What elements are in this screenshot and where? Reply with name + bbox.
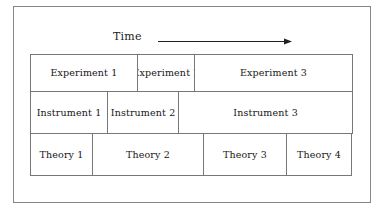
block-theory-1[interactable]: Theory 1 bbox=[30, 133, 93, 176]
track-row-instrument: Instrument 1 Instrument 2 Instrument 3 bbox=[30, 91, 355, 134]
block-theory-4[interactable]: Theory 4 bbox=[286, 133, 352, 176]
time-axis: Time bbox=[30, 30, 355, 50]
block-instrument-2[interactable]: Instrument 2 bbox=[107, 91, 179, 134]
block-experiment-2[interactable]: Experiment 2 bbox=[137, 54, 195, 92]
block-theory-2[interactable]: Theory 2 bbox=[92, 133, 204, 176]
phase-block-diagram: Experiment 1 Experiment 2 Experiment 3 I… bbox=[30, 54, 355, 178]
right-arrow-icon bbox=[158, 37, 292, 46]
block-theory-3[interactable]: Theory 3 bbox=[203, 133, 287, 176]
block-label: Instrument 1 bbox=[37, 107, 102, 119]
block-label: Instrument 2 bbox=[111, 107, 176, 119]
block-label: Instrument 3 bbox=[233, 107, 298, 119]
block-experiment-1[interactable]: Experiment 1 bbox=[30, 54, 138, 92]
block-experiment-3[interactable]: Experiment 3 bbox=[194, 54, 353, 92]
block-label: Experiment 2 bbox=[137, 67, 195, 79]
block-label: Theory 3 bbox=[223, 149, 267, 161]
block-instrument-1[interactable]: Instrument 1 bbox=[30, 91, 108, 134]
track-row-experiment: Experiment 1 Experiment 2 Experiment 3 bbox=[30, 54, 355, 92]
block-label: Theory 4 bbox=[297, 149, 341, 161]
track-row-theory: Theory 1 Theory 2 Theory 3 Theory 4 bbox=[30, 133, 355, 176]
block-label: Theory 2 bbox=[126, 149, 170, 161]
block-instrument-3[interactable]: Instrument 3 bbox=[178, 91, 353, 134]
time-axis-label: Time bbox=[113, 30, 142, 44]
block-label: Theory 1 bbox=[40, 149, 84, 161]
block-label: Experiment 3 bbox=[240, 67, 307, 79]
figure-root: Time Experiment 1 Experiment 2 Experimen… bbox=[0, 0, 384, 211]
block-label: Experiment 1 bbox=[50, 67, 117, 79]
